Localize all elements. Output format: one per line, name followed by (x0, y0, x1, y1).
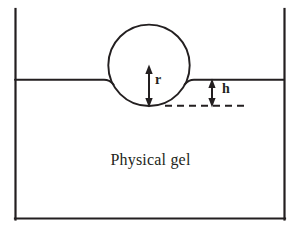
radius-arrow-head-up (145, 65, 152, 75)
diagram-svg (0, 0, 301, 234)
figure-canvas: r h Physical gel (0, 0, 301, 234)
depth-double-arrow (208, 79, 215, 108)
radius-double-arrow (145, 65, 152, 108)
gel-surface-line-left (15, 80, 114, 85)
gel-surface-line-right (185, 80, 284, 85)
radius-label: r (155, 73, 161, 87)
depth-label: h (222, 82, 230, 96)
medium-label: Physical gel (0, 152, 301, 168)
